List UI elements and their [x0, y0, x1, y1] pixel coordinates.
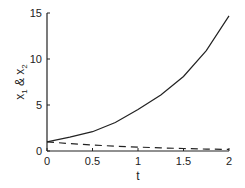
y-axis-label: x1 & x2: [13, 64, 29, 100]
y-tick-label: 5: [36, 99, 42, 111]
axis-labels: tx1 & x2: [13, 64, 140, 183]
y-tick-label: 15: [30, 7, 42, 19]
x-tick-label: 1: [135, 155, 141, 167]
x-tick-label: 1.5: [176, 155, 191, 167]
y-tick-label: 0: [36, 145, 42, 157]
x-tick-label: 2: [226, 155, 232, 167]
plot-area: [47, 16, 229, 150]
line-chart: 05101500.511.52 tx1 & x2: [0, 0, 245, 188]
series-x1-line: [47, 16, 229, 142]
x-tick-label: 0: [44, 155, 50, 167]
y-tick-label: 10: [30, 53, 42, 65]
x-axis-label: t: [136, 169, 140, 183]
x-tick-label: 0.5: [85, 155, 100, 167]
